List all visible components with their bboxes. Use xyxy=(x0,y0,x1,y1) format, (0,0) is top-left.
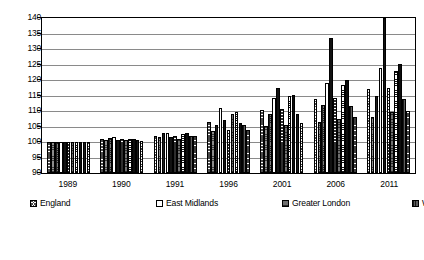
legend-label: East Midlands xyxy=(166,199,218,208)
legend-swatch-icon xyxy=(30,200,37,207)
bar xyxy=(246,130,250,173)
y-axis-tick-label: 95 xyxy=(7,153,41,162)
y-axis-tick-label: 115 xyxy=(7,91,41,100)
plot-outer xyxy=(41,17,416,174)
legend-item[interactable]: Greater London xyxy=(282,196,412,210)
y-axis-tick-label: 110 xyxy=(7,106,41,115)
legend-swatch-icon xyxy=(412,200,419,207)
bar xyxy=(406,111,410,173)
x-axis-label-1996: 1996 xyxy=(202,178,256,192)
bar xyxy=(353,117,357,173)
x-axis-label-2011: 2011 xyxy=(362,178,416,192)
bar-group-2001 xyxy=(255,18,308,173)
legend-label: England xyxy=(40,199,71,208)
y-axis-tick-label: 90 xyxy=(7,168,41,177)
bar xyxy=(87,142,91,173)
legend-item[interactable]: England xyxy=(30,196,156,210)
legend-swatch-icon xyxy=(156,200,163,207)
bar-chart: 1401351301251201151101051009590 19891990… xyxy=(0,0,424,260)
bar xyxy=(300,123,304,173)
legend-swatch-icon xyxy=(282,200,289,207)
y-axis-tick-label: 130 xyxy=(7,44,41,53)
plot-area xyxy=(41,17,416,174)
bar-groups xyxy=(42,18,415,173)
x-axis-label-1990: 1990 xyxy=(95,178,149,192)
legend-label: Greater London xyxy=(292,199,350,208)
x-axis-label-1991: 1991 xyxy=(148,178,202,192)
bar xyxy=(193,136,197,173)
x-axis-label-2006: 2006 xyxy=(309,178,363,192)
x-axis-labels: 1989199019911996200120062011 xyxy=(41,178,416,192)
bar-group-1989 xyxy=(42,18,95,173)
x-axis-label-2001: 2001 xyxy=(255,178,309,192)
y-axis-tick-label: 100 xyxy=(7,137,41,146)
x-axis-label-1989: 1989 xyxy=(41,178,95,192)
y-axis-tick-label: 140 xyxy=(7,13,41,22)
y-axis-tick-label: 105 xyxy=(7,122,41,131)
chart-legend: EnglandEast MidlandsGreater LondonWest M… xyxy=(30,196,412,254)
legend-item[interactable]: West Midlands xyxy=(412,196,424,210)
y-axis-tick-label: 135 xyxy=(7,29,41,38)
bar xyxy=(140,141,144,173)
bar-group-1990 xyxy=(95,18,148,173)
bar-group-1991 xyxy=(149,18,202,173)
y-axis-tick-label: 120 xyxy=(7,75,41,84)
bar-group-1996 xyxy=(202,18,255,173)
y-axis-tick-label: 125 xyxy=(7,60,41,69)
legend-item[interactable]: East Midlands xyxy=(156,196,282,210)
bar-group-2006 xyxy=(308,18,361,173)
bar-group-2011 xyxy=(362,18,415,173)
